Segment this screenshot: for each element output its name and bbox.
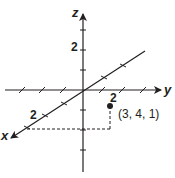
z-tick-label: 2	[71, 40, 78, 54]
diagram-canvas: z y x 2 2 2 (3, 4, 1)	[0, 0, 175, 178]
x-tick-label: 2	[30, 108, 37, 122]
x-axis	[11, 51, 145, 138]
projection-lines	[27, 108, 110, 129]
point-label: (3, 4, 1)	[118, 107, 159, 121]
y-tick-label: 2	[110, 91, 117, 105]
y-axis-label: y	[163, 82, 172, 97]
z-axis-label: z	[71, 5, 79, 20]
coordinate-diagram: z y x 2 2 2 (3, 4, 1)	[0, 0, 175, 178]
x-axis-label: x	[0, 128, 9, 143]
